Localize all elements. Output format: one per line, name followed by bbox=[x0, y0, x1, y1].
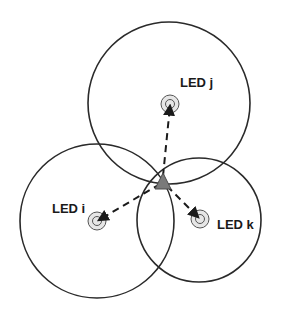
led-i-label: LED i bbox=[52, 201, 85, 216]
led-i-marker-icon bbox=[88, 212, 106, 230]
receiver-triangle-icon bbox=[155, 173, 171, 189]
distance-arrow-to-led-i bbox=[99, 184, 160, 220]
trilateration-diagram: LED j LED i LED k bbox=[0, 0, 289, 312]
led-k-label: LED k bbox=[217, 217, 255, 232]
led-j-label: LED j bbox=[180, 75, 213, 90]
